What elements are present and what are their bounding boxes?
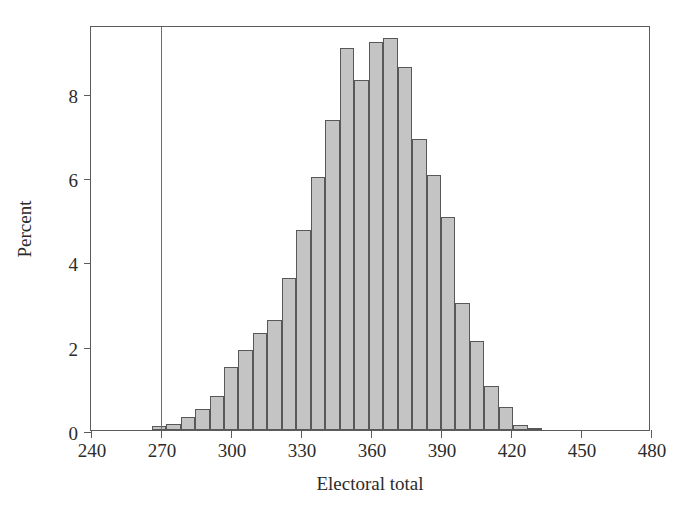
histogram-bar	[181, 417, 195, 430]
histogram-bar	[369, 42, 383, 430]
histogram-bar	[513, 425, 527, 430]
y-axis-title-text: Percent	[14, 200, 36, 257]
x-axis-tick-label: 450	[568, 441, 597, 460]
histogram-bar	[152, 426, 166, 430]
histogram-bar	[499, 407, 513, 430]
histogram-bar	[166, 424, 180, 430]
x-axis-title: Electoral total	[90, 473, 650, 495]
x-axis-title-text: Electoral total	[316, 473, 423, 494]
x-axis-tick-label: 330	[288, 441, 317, 460]
y-axis-tick-label: 8	[69, 86, 79, 105]
x-axis-tick: 360	[371, 430, 372, 438]
histogram-bar	[340, 48, 354, 430]
histogram-bar	[398, 67, 412, 430]
x-axis-tick: 270	[161, 430, 162, 438]
x-axis-tick-label: 480	[638, 441, 667, 460]
histogram-bar	[484, 386, 498, 430]
y-axis-title: Percent	[14, 26, 36, 431]
y-axis-tick: 8	[84, 95, 91, 96]
histogram-bar	[224, 367, 238, 430]
plot-frame: 02468 240270300330360390420450480	[90, 26, 650, 431]
y-axis-tick-label: 6	[69, 170, 79, 189]
x-axis-tick: 300	[231, 430, 232, 438]
electoral-majority-reference-line	[161, 27, 162, 430]
x-axis-tick: 450	[581, 430, 582, 438]
histogram-bar	[427, 175, 441, 430]
histogram-bar	[441, 217, 455, 430]
histogram-bar	[195, 409, 209, 430]
y-axis-tick-label: 2	[69, 339, 79, 358]
y-axis-tick: 6	[84, 179, 91, 180]
histogram-bar	[282, 278, 296, 430]
histogram-bar	[311, 177, 325, 430]
x-axis-tick-label: 360	[358, 441, 387, 460]
x-axis-tick: 480	[651, 430, 652, 438]
x-axis-tick: 330	[301, 430, 302, 438]
y-axis-tick: 4	[84, 263, 91, 264]
x-axis-tick-label: 390	[428, 441, 457, 460]
histogram-bar	[383, 38, 397, 430]
x-axis-tick: 240	[91, 430, 92, 438]
histogram-bar	[470, 341, 484, 430]
histogram-bar	[325, 120, 339, 430]
y-axis-tick: 0	[84, 432, 91, 433]
y-axis-tick-label: 4	[69, 255, 79, 274]
x-axis-tick-label: 420	[498, 441, 527, 460]
histogram-figure: Percent 02468 24027030033036039042045048…	[0, 0, 685, 519]
histogram-bar	[354, 80, 368, 430]
histogram-bar	[412, 139, 426, 430]
x-axis-tick: 420	[511, 430, 512, 438]
histogram-bar	[528, 428, 542, 430]
plot-area	[91, 27, 649, 430]
histogram-bar	[210, 396, 224, 430]
histogram-bar	[253, 333, 267, 430]
histogram-bar	[238, 350, 252, 430]
x-axis-tick-label: 270	[148, 441, 177, 460]
histogram-bar	[267, 320, 281, 430]
y-axis-tick: 2	[84, 348, 91, 349]
histogram-bar	[296, 230, 310, 430]
x-axis-tick-label: 240	[78, 441, 107, 460]
histogram-bar	[455, 303, 469, 430]
x-axis-tick: 390	[441, 430, 442, 438]
x-axis-tick-label: 300	[218, 441, 247, 460]
y-axis-tick-label: 0	[69, 424, 79, 443]
